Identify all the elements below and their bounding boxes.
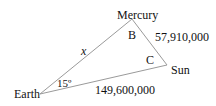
vertex-label-mercury: Mercury: [117, 9, 158, 21]
angle-label-mercury: B: [128, 29, 136, 41]
vertex-label-earth: Earth: [14, 88, 40, 100]
vertex-label-sun: Sun: [171, 64, 190, 76]
angle-label-sun: C: [146, 54, 154, 66]
side-label-mercury-sun: 57,910,000: [155, 31, 209, 43]
side-label-earth-mercury: x: [81, 45, 86, 57]
side-label-earth-sun: 149,600,000: [95, 84, 155, 96]
angle-label-earth: 15º: [57, 77, 71, 89]
triangle-diagram: Mercury Sun Earth B C 15º x 57,910,000 1…: [0, 0, 216, 106]
